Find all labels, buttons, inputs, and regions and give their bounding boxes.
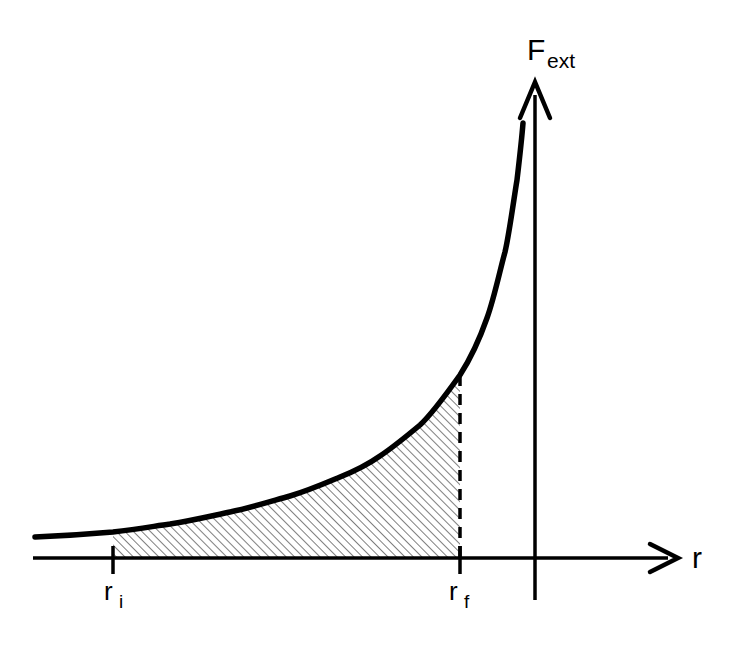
tick-label-r-initial-main: r <box>104 576 113 606</box>
x-axis-label-main: r <box>692 541 702 574</box>
hatch-fill <box>100 360 480 570</box>
work-area-hatched <box>100 360 480 570</box>
tick-label-r-initial: r i <box>104 576 123 612</box>
force-vs-separation-figure: F ext r r i r f <box>0 0 737 653</box>
tick-label-r-initial-subscript: i <box>119 591 123 612</box>
tick-label-r-final-subscript: f <box>464 591 470 612</box>
figure-canvas: F ext r r i r f <box>0 0 737 653</box>
tick-label-r-final: r f <box>449 576 470 612</box>
tick-label-r-final-main: r <box>449 576 458 606</box>
x-axis-label: r <box>692 541 702 574</box>
y-axis-label-subscript: ext <box>547 49 575 72</box>
y-axis-label-main: F <box>527 33 545 66</box>
y-axis-label: F ext <box>527 33 575 72</box>
